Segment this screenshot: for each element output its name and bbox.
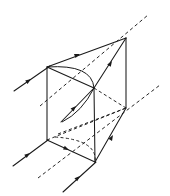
figure-root — [0, 0, 170, 196]
incident-ray-bottom — [63, 162, 96, 192]
edge-top-back-left-to-apex — [47, 38, 126, 67]
arrowhead-bottom-face-ray — [63, 146, 70, 152]
ray-group — [13, 52, 115, 192]
internal-ray-lower-left — [61, 88, 94, 122]
incident-ray-upper-left — [14, 66, 50, 91]
edge-bottom-front-mid-to-right-lower — [95, 108, 126, 162]
dashed-axis-group — [38, 15, 160, 178]
dashed-axis-lower — [38, 85, 160, 178]
hidden-edge-bottom-diagonal — [58, 108, 126, 134]
edge-front-mid-vertical — [94, 88, 95, 162]
edge-bottom-back-left-to-front-mid — [47, 140, 95, 162]
edge-top-back-left-to-front-mid — [47, 67, 94, 88]
ray-diagram-canvas — [0, 0, 170, 196]
hidden-edge-front-mid-to-right-lower — [94, 88, 126, 108]
arc-group-solid — [47, 67, 94, 122]
incident-ray-lower-left — [13, 140, 48, 166]
